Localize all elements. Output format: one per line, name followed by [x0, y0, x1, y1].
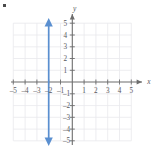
y-tick-label: 4	[63, 32, 67, 40]
y-tick-label: 5	[63, 20, 67, 28]
y-tick-labels: 5 4 3 2 1 –1 –2 –3 –4 –5	[62, 20, 71, 146]
figure-root: –5 –4 –3 –2 –1 1 2 3 4 5 5 4 3 2 1 –1 –2…	[0, 0, 160, 154]
y-tick-label: –5	[62, 137, 71, 145]
x-tick-label: 5	[130, 87, 134, 95]
x-tick-label: 3	[106, 87, 110, 95]
x-tick-label: –2	[44, 87, 53, 95]
y-tick-label: –2	[62, 102, 71, 110]
y-tick-label: –4	[62, 126, 71, 134]
y-tick-label: 2	[63, 55, 67, 63]
x-axis-arrow-icon	[137, 80, 142, 85]
x-tick-label: –4	[21, 87, 30, 95]
x-tick-label: 1	[82, 87, 86, 95]
x-tick-label: 4	[118, 87, 122, 95]
x-axis-label: x	[146, 77, 151, 86]
x-tick-label: –5	[9, 87, 18, 95]
axes	[11, 14, 142, 145]
y-tick-label: –3	[62, 114, 71, 122]
line-arrow-up-icon	[45, 18, 53, 27]
line-arrow-down-icon	[45, 138, 53, 147]
x-tick-labels: –5 –4 –3 –2 –1 1 2 3 4 5	[9, 87, 134, 95]
x-tick-label: 2	[94, 87, 98, 95]
y-tick-label: 1	[63, 67, 67, 75]
y-tick-label: –1	[62, 90, 71, 98]
y-tick-label: 3	[63, 43, 67, 51]
coordinate-plane-svg: –5 –4 –3 –2 –1 1 2 3 4 5 5 4 3 2 1 –1 –2…	[0, 0, 160, 154]
y-axis-arrow-icon	[70, 14, 75, 19]
y-axis-label: y	[72, 4, 77, 13]
x-tick-label: –3	[32, 87, 41, 95]
